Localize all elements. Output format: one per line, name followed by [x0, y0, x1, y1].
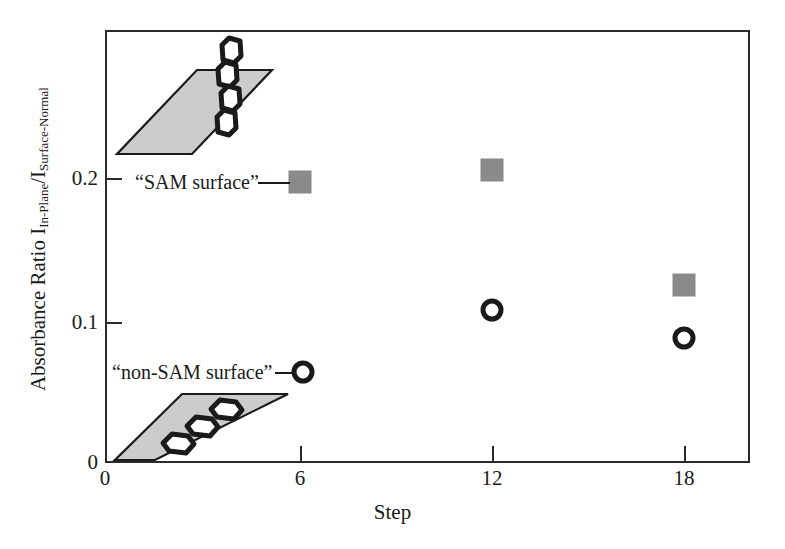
x-tick-mark-12: [492, 446, 494, 463]
data-point-sam-step18: [673, 274, 696, 297]
y-axis-title-subscript-surface-normal: Surface-Normal: [36, 87, 51, 171]
x-tick-label-12: 12: [472, 468, 512, 489]
absorbance-ratio-scatter-chart: 0.2 0.1 0 0 6 12 18 “SAM surface” “non-S…: [0, 0, 785, 549]
annotation-non-sam-leader-line: [275, 372, 292, 374]
x-tick-label-18: 18: [664, 468, 704, 489]
y-tick-mark-0.2: [105, 178, 122, 180]
annotation-sam-surface-label: “SAM surface”: [135, 172, 259, 192]
y-axis-title: Absorbance Ratio IIn-Plane/ISurface-Norm…: [26, 4, 52, 474]
data-point-nonsam-step6: [292, 361, 315, 384]
annotation-non-sam-surface-label: “non-SAM surface”: [112, 362, 273, 382]
data-point-sam-step6: [289, 171, 312, 194]
y-axis-title-subscript-in-plane: In-Plane: [36, 184, 51, 228]
x-tick-mark-18: [684, 446, 686, 463]
inset-flat-molecule-diagram: [110, 388, 325, 466]
data-point-nonsam-step18: [673, 327, 696, 350]
x-tick-label-6: 6: [280, 468, 320, 489]
y-tick-mark-0.1: [105, 322, 122, 324]
x-tick-label-0: 0: [85, 468, 125, 489]
y-axis-title-slash: /I: [26, 171, 50, 184]
x-axis-title: Step: [0, 500, 785, 525]
data-point-sam-step12: [481, 159, 504, 182]
inset-upright-molecule-diagram: [112, 32, 337, 167]
y-axis-title-prefix: Absorbance Ratio I: [26, 228, 50, 391]
annotation-sam-leader-line: [258, 182, 290, 184]
x-tick-mark-6: [300, 446, 302, 463]
data-point-nonsam-step12: [481, 299, 504, 322]
